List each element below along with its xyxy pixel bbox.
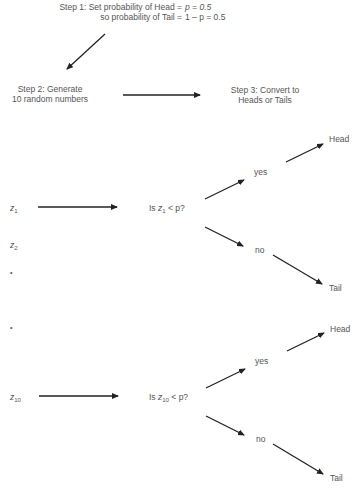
- arrows-layer: [0, 0, 360, 495]
- coin-flip-simulation-diagram: Step 1: Set probability of Head = p = 0.…: [0, 0, 360, 495]
- decision-prefix: Is: [149, 392, 156, 402]
- z-subscript: 1: [14, 208, 17, 214]
- arrow-decision10-yes: [206, 369, 245, 388]
- arrow-no-tail10: [273, 444, 323, 474]
- outcome-tail-1: Tail: [329, 283, 342, 293]
- decision-z10: Is z10 < p?: [149, 392, 188, 402]
- decision-suffix: < p?: [168, 203, 185, 213]
- arrow-yes-head10: [287, 333, 324, 351]
- z-subscript: 10: [162, 397, 169, 403]
- outcome-head-1: Head: [329, 134, 349, 144]
- outcome-tail-10: Tail: [330, 473, 343, 483]
- branch-no-1: no: [255, 245, 264, 255]
- ellipsis-dot-1: •: [10, 268, 12, 278]
- decision-z1: Is z1 < p?: [149, 203, 185, 213]
- step3-line2: Heads or Tails: [215, 95, 315, 105]
- step1-head-value: p = 0.5: [185, 2, 211, 12]
- decision-prefix: Is: [149, 203, 156, 213]
- step1-tail-label: so probability of Tail =: [20, 12, 182, 22]
- step3-line1: Step 3: Convert to: [215, 85, 315, 95]
- z-subscript: 10: [14, 397, 21, 403]
- arrow-decision1-no: [205, 227, 243, 246]
- outcome-head-10: Head: [330, 324, 350, 334]
- random-z10: z10: [10, 392, 21, 402]
- ellipsis-dot-2: •: [10, 323, 12, 333]
- arrow-yes-head1: [286, 144, 323, 162]
- arrow-decision10-no: [206, 416, 244, 435]
- arrow-decision1-yes: [205, 180, 244, 199]
- decision-suffix: < p?: [171, 392, 188, 402]
- z-subscript: 1: [162, 208, 165, 214]
- step2-line1: Step 2: Generate: [5, 84, 95, 94]
- step2-line2: 10 random numbers: [5, 94, 95, 104]
- arrow-no-tail1: [273, 255, 322, 284]
- step1-head-label: Step 1: Set probability of Head =: [20, 2, 182, 12]
- step1-tail-value: 1 – p = 0.5: [185, 12, 225, 22]
- random-z2: z2: [10, 240, 18, 250]
- p-value: p = 0.5: [185, 2, 211, 12]
- branch-no-10: no: [256, 434, 265, 444]
- branch-yes-10: yes: [255, 356, 268, 366]
- branch-yes-1: yes: [254, 167, 267, 177]
- arrow-step1-to-step2: [67, 34, 105, 69]
- random-z1: z1: [10, 203, 18, 213]
- z-subscript: 2: [14, 245, 17, 251]
